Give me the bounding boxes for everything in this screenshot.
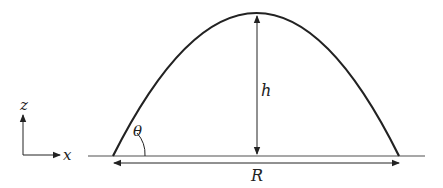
axes-indicator: z x xyxy=(19,96,72,164)
angle-label: θ xyxy=(133,122,142,140)
x-axis-label: x xyxy=(63,146,72,164)
trajectory-curve xyxy=(113,13,399,156)
range-label: R xyxy=(250,166,263,185)
z-axis-label: z xyxy=(19,96,28,114)
height-label: h xyxy=(261,81,271,100)
projectile-diagram: z x θ h R xyxy=(0,0,443,188)
